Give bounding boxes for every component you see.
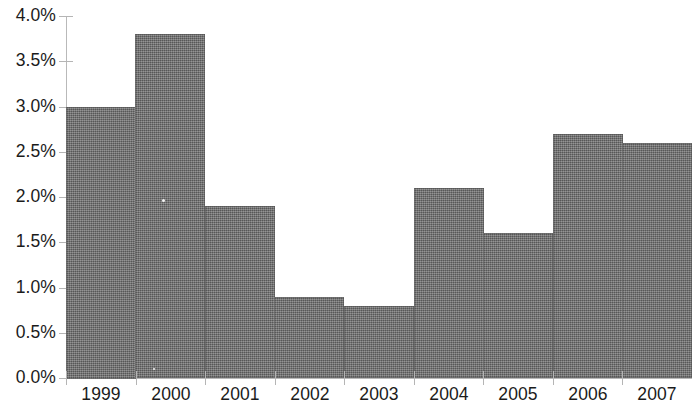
- scan-speckle: [153, 368, 155, 370]
- x-axis-tick-label: 2005: [483, 386, 553, 404]
- x-axis-tick-label: 2000: [136, 386, 206, 404]
- y-axis-tick-label: 3.0%: [2, 98, 56, 116]
- x-axis-tick: [553, 371, 554, 385]
- y-axis-tick-label: 2.0%: [2, 188, 56, 206]
- x-axis-tick: [622, 371, 623, 385]
- x-axis-tick: [66, 371, 67, 385]
- x-axis-tick-label: 2006: [553, 386, 623, 404]
- plot-area: 0.0%0.5%1.0%1.5%2.0%2.5%3.0%3.5%4.0% 199…: [0, 0, 692, 415]
- x-axis-tick: [275, 371, 276, 385]
- y-axis-tick: [59, 16, 73, 17]
- y-axis-tick-label: 2.5%: [2, 143, 56, 161]
- x-axis-tick-label: 2007: [622, 386, 692, 404]
- y-axis-tick-label: 1.0%: [2, 279, 56, 297]
- bar: [483, 233, 553, 378]
- scan-speckle: [162, 199, 165, 202]
- bar: [66, 107, 136, 379]
- y-axis-tick-label: 3.5%: [2, 52, 56, 70]
- y-axis-tick-label: 4.0%: [2, 7, 56, 25]
- y-axis-tick: [59, 61, 73, 62]
- bar-chart: 0.0%0.5%1.0%1.5%2.0%2.5%3.0%3.5%4.0% 199…: [0, 0, 692, 415]
- x-axis-tick-label: 1999: [66, 386, 136, 404]
- x-axis-tick-label: 2004: [414, 386, 484, 404]
- y-axis-tick-label: 1.5%: [2, 233, 56, 251]
- bar: [622, 143, 692, 378]
- bar: [414, 188, 484, 378]
- x-axis-tick: [205, 371, 206, 385]
- x-axis-tick-label: 2001: [205, 386, 275, 404]
- bar: [135, 34, 205, 378]
- bar: [553, 134, 623, 378]
- x-axis-tick: [344, 371, 345, 385]
- x-axis-tick: [483, 371, 484, 385]
- bar: [274, 297, 344, 378]
- y-axis-tick-label: 0.5%: [2, 324, 56, 342]
- y-axis-tick-label: 0.0%: [2, 369, 56, 387]
- bar: [344, 306, 414, 378]
- x-axis-tick-label: 2003: [344, 386, 414, 404]
- x-axis-tick: [414, 371, 415, 385]
- x-axis-tick-label: 2002: [275, 386, 345, 404]
- bar: [205, 206, 275, 378]
- x-axis-tick: [136, 371, 137, 385]
- x-axis-line: [60, 378, 692, 379]
